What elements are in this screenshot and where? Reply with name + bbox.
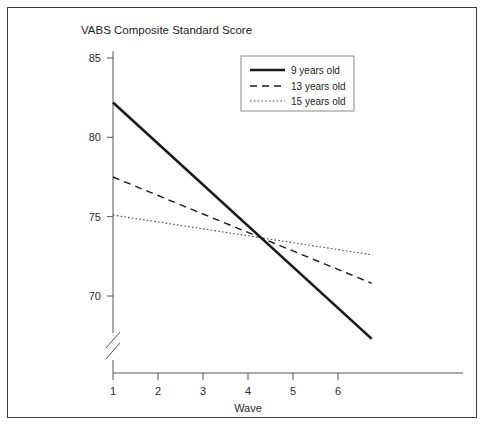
y-tick-label-75: 75 — [89, 211, 101, 223]
y-tick-label-80: 80 — [89, 131, 101, 143]
figure-frame: VABS Composite Standard Score 85 80 75 7… — [7, 7, 477, 418]
x-tick-label-5: 5 — [290, 385, 296, 397]
x-axis-label: Wave — [234, 402, 262, 414]
x-tick-label-1: 1 — [110, 385, 116, 397]
x-tick-group: 1 2 3 4 5 6 — [110, 373, 341, 397]
page-title: VABS Composite Standard Score — [81, 24, 252, 36]
y-tick-group: 85 80 75 70 — [89, 52, 113, 302]
legend-label-13-years-old: 13 years old — [291, 81, 345, 92]
legend-label-9-years-old: 9 years old — [291, 65, 340, 76]
series-line-13-years-old — [113, 177, 372, 283]
legend: 9 years old 13 years old 15 years old — [241, 56, 354, 111]
x-tick-label-6: 6 — [335, 385, 341, 397]
x-tick-label-3: 3 — [200, 385, 206, 397]
y-tick-label-85: 85 — [89, 52, 101, 64]
x-tick-label-2: 2 — [155, 385, 161, 397]
x-tick-label-4: 4 — [245, 385, 251, 397]
chart-canvas: VABS Composite Standard Score 85 80 75 7… — [8, 8, 476, 417]
legend-label-15-years-old: 15 years old — [291, 96, 345, 107]
y-tick-label-70: 70 — [89, 290, 101, 302]
